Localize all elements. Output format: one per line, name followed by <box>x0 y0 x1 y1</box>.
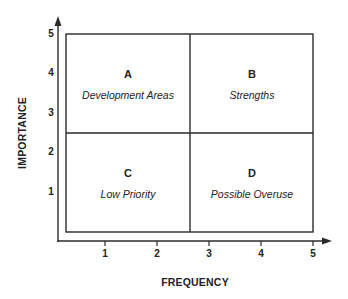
y-tick-label: 2 <box>44 146 58 157</box>
quadrant-a-label: Development Areas <box>66 89 190 101</box>
y-axis-title: IMPORTANCE <box>16 93 28 173</box>
y-tick-label: 1 <box>44 186 58 197</box>
x-axis-arrow-icon <box>322 238 332 245</box>
quadrant-d-letter: D <box>192 167 312 179</box>
x-tick-label: 2 <box>150 248 164 259</box>
quadrant-b-letter: B <box>192 68 312 80</box>
y-tick-label: 4 <box>44 67 58 78</box>
x-tick-label: 5 <box>306 248 320 259</box>
quadrant-c-label: Low Priority <box>66 188 190 200</box>
y-tick-label: 3 <box>44 107 58 118</box>
y-tick-label: 5 <box>44 28 58 39</box>
quadrant-a-letter: A <box>68 68 188 80</box>
x-tick-label: 3 <box>202 248 216 259</box>
quadrant-c-letter: C <box>68 167 188 179</box>
x-tick-label: 1 <box>98 248 112 259</box>
x-ticks <box>105 241 313 246</box>
x-axis-title: FREQUENCY <box>160 276 230 288</box>
y-axis-arrow-icon <box>55 16 62 26</box>
quadrant-d-label: Possible Overuse <box>190 188 314 200</box>
x-tick-label: 4 <box>254 248 268 259</box>
quadrant-b-label: Strengths <box>190 89 314 101</box>
